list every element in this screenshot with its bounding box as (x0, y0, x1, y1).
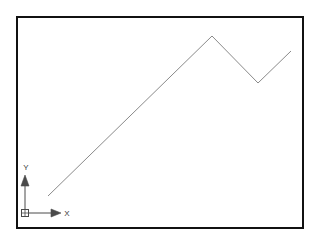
viewport-canvas[interactable]: Y X (0, 0, 319, 245)
ucs-y-axis-label: Y (23, 163, 29, 172)
viewport-border[interactable] (17, 17, 303, 228)
ucs-x-axis-label: X (64, 209, 70, 218)
cad-drawing-screen: Y X (0, 0, 319, 245)
